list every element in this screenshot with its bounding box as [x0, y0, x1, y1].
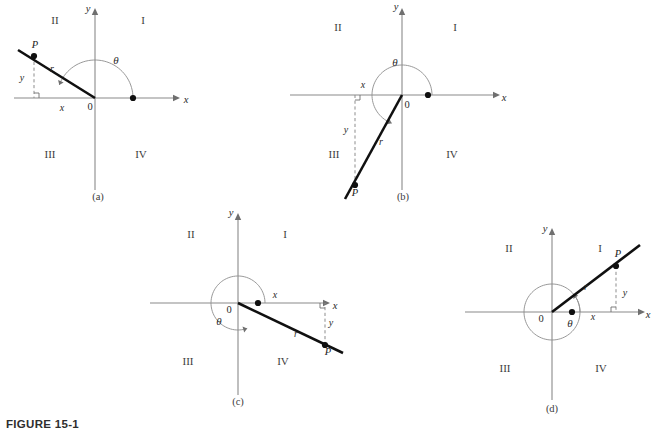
figure-15-1: IIIIIIIVxy0Prxyθ(a)IIIIIIIVxy0Prxyθ(b)II… [0, 0, 656, 439]
panel-c: IIIIIIIVxy0Prxyθ(c) [150, 207, 343, 408]
quadrant-label-iv: IV [595, 362, 607, 374]
leg-y-label: y [328, 317, 334, 328]
theta-label: θ [113, 54, 119, 66]
quadrant-label-i: I [598, 242, 602, 254]
y-axis-arrowhead [399, 8, 405, 15]
quadrant-label-iii: III [183, 355, 194, 367]
x-axis-label: x [645, 309, 651, 320]
quadrant-label-i: I [141, 14, 145, 26]
quadrant-label-i: I [283, 228, 287, 240]
initial-side-dot [130, 95, 136, 101]
quadrant-label-iii: III [45, 148, 56, 160]
quadrant-label-ii: II [334, 21, 342, 33]
origin-label: 0 [87, 101, 92, 112]
point-p-label: P [614, 248, 622, 259]
right-angle-marker [611, 307, 616, 312]
quadrant-label-ii: II [51, 14, 59, 26]
theta-label: θ [567, 317, 573, 329]
panel-label-c: (c) [232, 396, 244, 408]
quadrant-label-i: I [453, 21, 457, 33]
radius-label: r [584, 281, 588, 292]
y-axis-label: y [85, 3, 91, 14]
leg-y-label: y [622, 287, 628, 298]
initial-side-dot [569, 309, 575, 315]
panel-label-a: (a) [92, 191, 104, 203]
x-axis-arrowhead [323, 300, 330, 306]
theta-label: θ [392, 56, 398, 68]
x-axis-arrowhead [638, 309, 645, 315]
quadrant-label-iii: III [500, 362, 511, 374]
origin-label: 0 [538, 313, 543, 324]
leg-x-label: x [272, 289, 278, 300]
panel-label-b: (b) [397, 191, 410, 203]
radius-label: r [379, 136, 383, 147]
y-axis-label: y [228, 207, 234, 218]
angle-arc [59, 60, 133, 98]
x-axis-label: x [332, 300, 338, 311]
quadrant-label-ii: II [505, 242, 513, 254]
terminal-ray [552, 245, 640, 312]
leg-y-label: y [19, 72, 25, 83]
leg-x-label: x [360, 79, 366, 90]
radius-label: r [294, 328, 298, 339]
point-p-label: P [31, 39, 39, 50]
point-p-label: P [324, 346, 332, 357]
x-axis-label: x [501, 92, 507, 103]
figure-caption: FIGURE 15-1 [6, 418, 79, 430]
right-angle-marker [355, 95, 360, 100]
diagram-canvas: IIIIIIIVxy0Prxyθ(a)IIIIIIIVxy0Prxyθ(b)II… [0, 0, 656, 439]
terminal-ray [18, 50, 95, 98]
leg-y-label: y [343, 124, 349, 135]
panel-a: IIIIIIIVxy0Prxyθ(a) [14, 3, 189, 203]
initial-side-dot [425, 92, 431, 98]
quadrant-label-iv: IV [277, 355, 289, 367]
initial-side-dot [255, 300, 261, 306]
panel-b: IIIIIIIVxy0Prxyθ(b) [290, 1, 507, 203]
radius-label: r [50, 63, 54, 74]
x-axis-arrowhead [493, 92, 500, 98]
point-p-dot [31, 53, 37, 59]
quadrant-label-ii: II [187, 228, 195, 240]
panel-d: IIIIIIIVxy0Prxyθ(d) [465, 223, 651, 415]
x-axis-label: x [183, 94, 189, 105]
y-axis-label: y [393, 1, 399, 12]
theta-label: θ [216, 315, 222, 327]
point-p-label: P [351, 187, 359, 198]
quadrant-label-iii: III [329, 148, 340, 160]
y-axis-arrowhead [235, 213, 241, 220]
panel-label-d: (d) [546, 403, 559, 415]
y-axis-arrowhead [92, 8, 98, 15]
quadrant-label-iv: IV [446, 148, 458, 160]
leg-x-label: x [59, 102, 65, 113]
origin-label: 0 [404, 99, 409, 110]
leg-x-label: x [590, 311, 596, 322]
point-p-dot [613, 263, 619, 269]
x-axis-arrowhead [173, 95, 180, 101]
y-axis-arrowhead [549, 228, 555, 235]
y-axis-label: y [542, 223, 548, 234]
quadrant-label-iv: IV [135, 148, 147, 160]
right-angle-marker [34, 93, 39, 98]
origin-label: 0 [226, 304, 231, 315]
